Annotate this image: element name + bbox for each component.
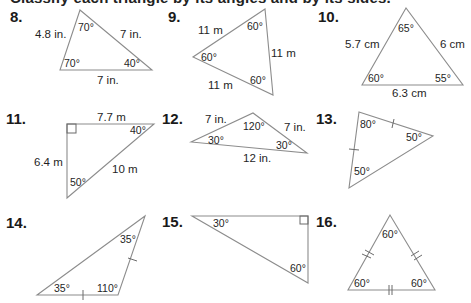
right-angle-marker [300,216,308,224]
side-label: 6.4 m [34,156,63,168]
angle-label: 70° [64,57,80,69]
problem-number: 13. [316,110,337,127]
side-label: 7 in. [284,121,306,133]
angle-label: 60° [290,262,306,274]
angle-label: 50° [354,165,370,177]
problem-10: 10. 5.7 cm 6 cm 6.3 cm 65° 60° 55° [318,8,465,99]
angle-label: 60° [247,20,263,32]
problem-number: 10. [318,8,339,25]
problem-number: 15. [162,213,183,230]
side-label: 6.3 cm [392,87,427,99]
angle-label: 30° [213,217,229,229]
side-label: 4.8 in. [35,28,66,40]
side-label: 7.7 m [97,111,126,123]
angle-label: 30° [208,134,224,146]
problem-14: 14. 35° 35° 110° [6,214,145,300]
problem-16: 16. 60° 60° 60° [316,213,435,295]
problem-number: 11. [6,110,26,127]
problem-12: 12. 7 in. 7 in. 12 in. 120° 30° 30° [162,110,307,164]
side-label: 11 m [198,24,223,36]
angle-label: 40° [130,124,146,136]
problem-11: 11. 7.7 m 6.4 m 10 m 40° 50° [6,110,154,198]
angle-label: 60° [411,277,427,289]
problem-9: 9. 11 m 11 m 11 m 60° 60° 60° [168,8,296,95]
side-label: 11 m [208,79,233,91]
congruence-tick [349,149,359,150]
problem-number: 9. [168,8,181,25]
problem-number: 12. [162,110,183,127]
angle-label: 60° [250,74,266,86]
angle-label: 50° [406,131,422,143]
angle-label: 60° [382,228,398,240]
side-label: 5.7 cm [345,38,380,50]
angle-label: 70° [78,21,94,33]
problem-number: 14. [6,214,27,231]
angle-label: 35° [120,233,136,245]
problem-number: 8. [10,8,23,25]
side-label: 12 in. [243,152,271,164]
problem-8: 8. 4.8 in. 7 in. 7 in. 70° 70° 40° [10,8,152,86]
side-label: 7 in. [205,113,227,125]
side-label: 10 m [112,163,138,175]
angle-label: 40° [124,57,140,69]
problem-15: 15. 30° 60° [162,213,308,283]
angle-label: 65° [398,22,414,34]
angle-label: 110° [97,282,118,294]
side-label: 11 m [271,47,296,59]
angle-label: 35° [54,282,70,294]
side-label: 7 in. [97,74,119,86]
right-angle-marker [67,124,76,133]
angle-label: 55° [435,72,451,84]
angle-label: 80° [360,118,376,130]
problem-number: 16. [316,213,337,230]
problem-13: 13. 80° 50° 50° [316,110,433,188]
angle-label: 120° [243,120,265,132]
side-label: 6 cm [440,38,465,50]
angle-label: 60° [368,72,384,84]
angle-label: 60° [354,277,370,289]
angle-label: 60° [201,51,217,63]
side-label: 7 in. [120,28,142,40]
angle-label: 30° [276,139,292,151]
angle-label: 50° [70,176,86,188]
